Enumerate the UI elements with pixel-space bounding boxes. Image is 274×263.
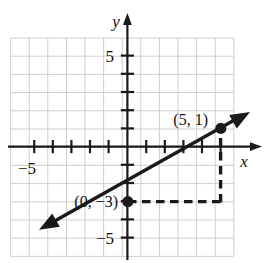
line-arrowhead-lower-left bbox=[39, 213, 60, 229]
y-tick-label-negative-5: −5 bbox=[96, 229, 114, 248]
y-axis-arrowhead bbox=[123, 13, 132, 25]
y-tick-label-positive-5: 5 bbox=[106, 47, 115, 66]
graph-svg: x y 5 −5 −5 (5, 1) (0, −3) bbox=[0, 0, 274, 263]
line-arrowhead-upper-right bbox=[229, 112, 250, 128]
data-point-y-intercept bbox=[122, 196, 133, 207]
coordinate-plane-figure: x y 5 −5 −5 (5, 1) (0, −3) bbox=[0, 0, 274, 263]
x-axis-label: x bbox=[239, 152, 248, 171]
point-label-5-1: (5, 1) bbox=[173, 111, 208, 129]
data-point-5-1 bbox=[215, 123, 226, 134]
point-label-0-neg3: (0, −3) bbox=[74, 193, 118, 211]
x-axis-arrowhead bbox=[250, 142, 262, 151]
x-tick-label-negative-5: −5 bbox=[18, 159, 36, 178]
y-axis-label: y bbox=[110, 12, 120, 31]
